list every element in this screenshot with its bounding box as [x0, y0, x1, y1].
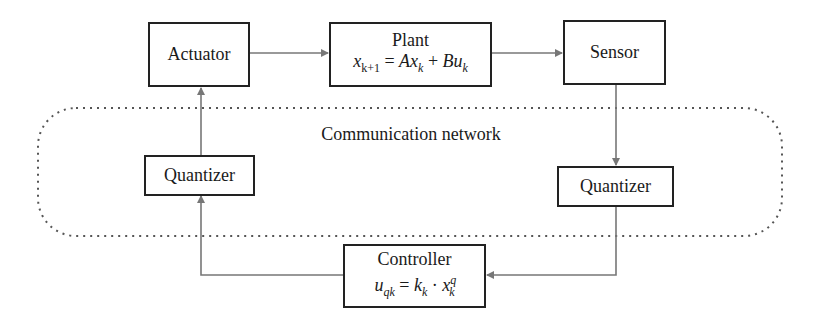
- sensor-block: Sensor: [563, 20, 666, 85]
- plant-block: Plant xk+1 = Axk + Buk: [329, 22, 492, 87]
- controller-block: Controller uqk = kk · xqk: [343, 244, 486, 308]
- block-diagram: Communication network Actuator Plant xk+…: [0, 0, 814, 332]
- controller-equation: uqk = kk · xqk: [374, 270, 454, 303]
- controller-label: Controller: [378, 249, 452, 270]
- quantizer-right-block: Quantizer: [557, 166, 674, 207]
- quantizer-left-label: Quantizer: [164, 165, 235, 186]
- quantizer-left-block: Quantizer: [144, 155, 255, 196]
- actuator-label: Actuator: [168, 44, 231, 65]
- plant-equation: xk+1 = Axk + Buk: [353, 51, 468, 79]
- sensor-label: Sensor: [590, 42, 639, 63]
- communication-network-label: Communication network: [296, 124, 526, 145]
- plant-label: Plant: [392, 30, 429, 51]
- quantizer-right-label: Quantizer: [580, 176, 651, 197]
- edge-quantizer-right-to-controller: [487, 207, 616, 275]
- actuator-block: Actuator: [148, 22, 250, 87]
